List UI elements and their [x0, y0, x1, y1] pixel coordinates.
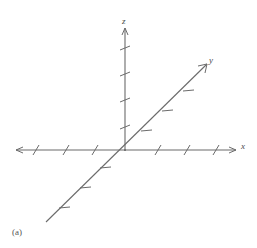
y-axis-label: y [209, 56, 213, 65]
z-axis-label: z [122, 17, 126, 26]
y-axis-group [46, 64, 207, 222]
x-axis-group [16, 145, 236, 155]
z-axis-group [120, 28, 130, 151]
origin-point [124, 149, 126, 151]
y-axis-ticks-positive [141, 90, 194, 131]
y-axis-line [46, 64, 207, 222]
figure-caption: (a) [12, 227, 22, 237]
coordinate-axes-diagram [0, 0, 257, 248]
x-axis-label: x [241, 142, 245, 151]
figure-panel: z y x (a) [0, 0, 257, 248]
